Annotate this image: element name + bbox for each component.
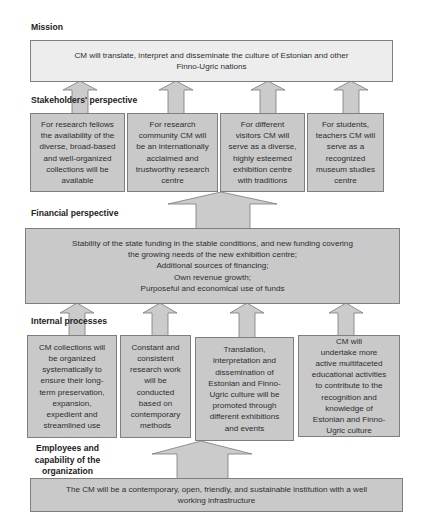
financial-text: Stability of the state funding in the st… xyxy=(72,238,353,294)
up-arrow-icon xyxy=(159,81,193,114)
stakeholders-label: Stakeholders' perspective xyxy=(31,95,137,105)
internal-text: CM will undertake more active multifacet… xyxy=(312,336,387,437)
internal-box-education: CM will undertake more active multifacet… xyxy=(298,335,400,437)
internal-label: Internal processes xyxy=(31,316,107,326)
internal-box-research: Constant and consistent research work wi… xyxy=(120,335,191,438)
stakeholder-text: For different visitors CM will serve as … xyxy=(229,119,297,186)
up-arrow-icon xyxy=(251,81,285,114)
internal-text: Translation, interpretation and dissemin… xyxy=(208,344,280,434)
employees-text: The CM will be a contemporary, open, fri… xyxy=(66,484,367,506)
up-arrow-icon xyxy=(143,303,177,336)
internal-text: CM collections will be organized systema… xyxy=(39,342,105,432)
internal-box-collections: CM collections will be organized systema… xyxy=(27,335,117,438)
financial-box: Stability of the state funding in the st… xyxy=(25,228,400,304)
up-arrow-icon xyxy=(168,192,277,229)
stakeholder-box-research-fellows: For research fellows the availability of… xyxy=(30,113,125,192)
up-arrow-icon xyxy=(334,81,368,114)
employees-label: Employees and capability of the organiza… xyxy=(30,443,105,478)
stakeholder-text: For research community CM will be an int… xyxy=(136,119,209,186)
financial-label: Financial perspective xyxy=(31,208,118,218)
mission-box: CM will translate, interpret and dissemi… xyxy=(30,40,393,82)
up-arrow-icon xyxy=(152,441,252,479)
stakeholder-box-visitors: For different visitors CM will serve as … xyxy=(220,113,305,192)
mission-text: CM will translate, interpret and dissemi… xyxy=(75,50,349,72)
stakeholder-text: For students, teachers CM will serve as … xyxy=(316,119,375,186)
employees-box: The CM will be a contemporary, open, fri… xyxy=(30,478,403,512)
stakeholder-box-students: For students, teachers CM will serve as … xyxy=(307,113,384,192)
internal-text: Constant and consistent research work wi… xyxy=(130,342,181,432)
mission-label: Mission xyxy=(31,22,63,32)
internal-box-exhibitions: Translation, interpretation and dissemin… xyxy=(195,337,294,441)
stakeholder-box-research-community: For research community CM will be an int… xyxy=(127,113,218,192)
stakeholder-text: For research fellows the availability of… xyxy=(39,119,115,186)
up-arrow-icon xyxy=(329,303,363,336)
up-arrow-icon xyxy=(230,303,264,338)
